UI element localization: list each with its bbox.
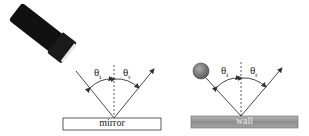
theta-i-label: θi bbox=[94, 66, 101, 81]
reflected-ray bbox=[114, 69, 154, 118]
mirror-label: mirror bbox=[63, 117, 161, 128]
theta-i-label: θi bbox=[221, 64, 228, 79]
theta-r-label: θr bbox=[123, 66, 131, 81]
flashlight-icon bbox=[7, 1, 77, 64]
incident-ray bbox=[206, 78, 241, 116]
reflected-ray bbox=[241, 68, 282, 116]
wall-label: wall bbox=[191, 115, 298, 126]
incident-angle-arc bbox=[217, 78, 240, 87]
theta-r-label: θr bbox=[250, 64, 258, 79]
reflected-angle-arc bbox=[242, 78, 266, 87]
ball-icon bbox=[193, 63, 209, 79]
reflection-diagram: θi θr mirror θi θr wall bbox=[0, 0, 309, 136]
